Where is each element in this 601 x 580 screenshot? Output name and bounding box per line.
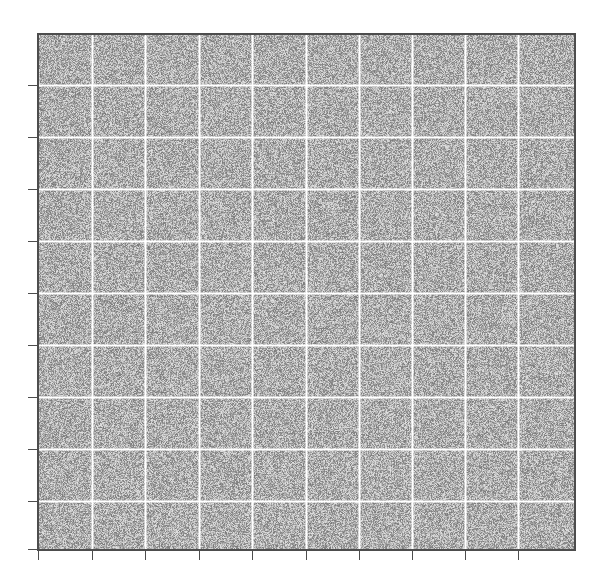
y-tick-8 <box>28 501 37 502</box>
y-tick-5 <box>28 345 37 346</box>
y-tick-9 <box>28 549 37 550</box>
y-tick-4 <box>28 293 37 294</box>
axis-spine-bottom <box>38 549 576 551</box>
x-tick-5 <box>306 551 307 560</box>
axis-spine-right <box>574 33 576 551</box>
y-tick-6 <box>28 397 37 398</box>
y-tick-2 <box>28 189 37 190</box>
x-tick-7 <box>412 551 413 560</box>
x-tick-1 <box>92 551 93 560</box>
y-tick-7 <box>28 449 37 450</box>
figure-canvas <box>0 0 601 580</box>
x-tick-9 <box>518 551 519 560</box>
noise-image <box>38 34 575 549</box>
y-tick-1 <box>28 137 37 138</box>
axis-spine-left <box>37 33 39 551</box>
x-tick-2 <box>145 551 146 560</box>
y-tick-3 <box>28 241 37 242</box>
x-tick-4 <box>252 551 253 560</box>
x-tick-3 <box>199 551 200 560</box>
x-tick-6 <box>359 551 360 560</box>
x-tick-0 <box>38 551 39 560</box>
axis-spine-top <box>38 33 576 35</box>
x-tick-8 <box>465 551 466 560</box>
plot-area <box>38 34 575 549</box>
y-tick-0 <box>28 85 37 86</box>
